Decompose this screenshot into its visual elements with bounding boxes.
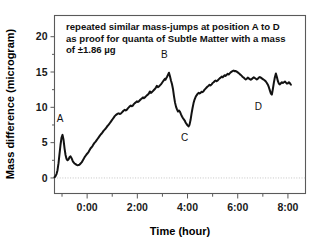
annotation-line-1: repeated similar mass-jumps at position … xyxy=(66,21,280,32)
data-series-line xyxy=(55,71,291,178)
point-label-D: D xyxy=(255,101,262,112)
x-axis-title: Time (hour) xyxy=(150,225,211,237)
y-tick-label: 10 xyxy=(36,101,48,113)
point-labels: ABCD xyxy=(57,49,262,143)
point-label-A: A xyxy=(57,113,64,124)
x-axis-ticks: 0:002:004:006:008:00 xyxy=(62,194,299,213)
x-tick-label: 8:00 xyxy=(277,201,298,213)
point-label-B: B xyxy=(161,49,168,60)
x-tick-label: 6:00 xyxy=(227,201,248,213)
annotation-line-2: as proof for quanta of Subtle Matter wit… xyxy=(66,33,286,44)
y-tick-label: 20 xyxy=(36,30,48,42)
y-axis-ticks: 05101520 xyxy=(36,30,55,183)
x-tick-label: 2:00 xyxy=(127,201,148,213)
series-line-mass-difference xyxy=(55,71,291,178)
chart-figure: 05101520 0:002:004:006:008:00 ABCD repea… xyxy=(0,0,324,244)
y-tick-label: 5 xyxy=(42,136,48,148)
y-tick-label: 15 xyxy=(36,66,48,78)
x-tick-label: 0:00 xyxy=(77,201,98,213)
annotation-line-3: of ±1.86 µg xyxy=(66,44,116,55)
chart-canvas: 05101520 0:002:004:006:008:00 ABCD repea… xyxy=(0,0,324,244)
x-tick-label: 4:00 xyxy=(177,201,198,213)
point-label-C: C xyxy=(181,132,188,143)
y-tick-label: 0 xyxy=(42,172,48,184)
y-axis-title: Mass difference (microgram) xyxy=(4,28,16,179)
annotation-text-block: repeated similar mass-jumps at position … xyxy=(66,21,286,55)
